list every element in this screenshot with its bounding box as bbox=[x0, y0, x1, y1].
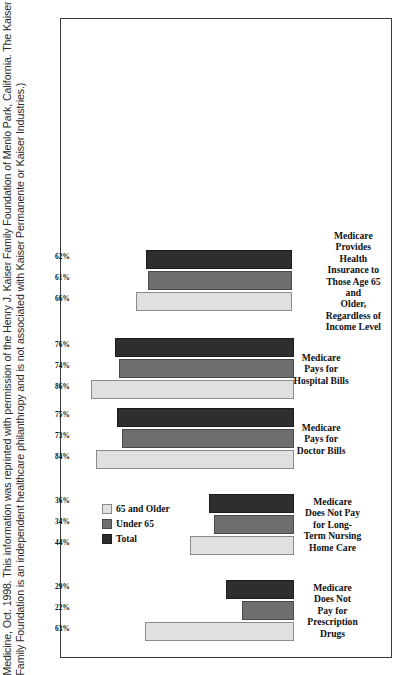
chart-category-label: Medicare Does Not Pay for Long-Term Nurs… bbox=[304, 496, 388, 554]
chart-bar-value-label: 75% bbox=[55, 411, 70, 418]
chart-bar-value-label: 34% bbox=[55, 518, 70, 525]
chart-bar-value-label: 29% bbox=[55, 583, 70, 590]
chart-bars-row: 63%22%29% bbox=[64, 582, 294, 640]
chart-bar-value-label: 73% bbox=[55, 432, 70, 439]
chart-bar[interactable]: 36% bbox=[209, 495, 294, 514]
chart-bar-slot: 73% bbox=[64, 430, 294, 449]
chart-bar-value-label: 76% bbox=[55, 341, 70, 348]
chart-category-label: Medicare Pays for Doctor Bills bbox=[304, 410, 388, 468]
source-caption-rotor: Medicine, Oct. 1998. This information wa… bbox=[0, 0, 56, 675]
chart-bar-slot: 76% bbox=[64, 339, 294, 358]
chart-bar-slot: 74% bbox=[64, 360, 294, 379]
chart-bar-slot: 34% bbox=[64, 516, 294, 535]
chart-bar-value-label: 22% bbox=[55, 604, 70, 611]
chart-bar-slot: 22% bbox=[64, 602, 294, 621]
chart-bar-slot: 75% bbox=[64, 409, 294, 428]
chart-bar[interactable]: 73% bbox=[122, 430, 294, 449]
chart-bars-row: 84%73%75% bbox=[64, 410, 294, 468]
chart-category-label-text: Medicare Provides Health Insurance to Th… bbox=[324, 230, 382, 333]
chart-bars-row: 66%61%62% bbox=[64, 252, 292, 310]
chart-bar-value-label: 62% bbox=[55, 253, 70, 260]
chart-bar-slot: 36% bbox=[64, 495, 294, 514]
chart-bar-slot: 44% bbox=[64, 537, 294, 556]
chart-bar-slot: 29% bbox=[64, 581, 294, 600]
chart-bar-slot: 86% bbox=[64, 381, 294, 400]
chart-bar[interactable]: 34% bbox=[214, 516, 294, 535]
chart-category-label-text: Medicare Does Not Pay for Prescription D… bbox=[304, 582, 362, 639]
chart-bar-value-label: 36% bbox=[55, 497, 70, 504]
chart-plot-area: 63%22%29%Medicare Does Not Pay for Presc… bbox=[64, 22, 388, 654]
source-caption-text: Medicine, Oct. 1998. This information wa… bbox=[0, 0, 27, 675]
chart-bar[interactable]: 44% bbox=[190, 537, 294, 556]
source-caption-block: Medicine, Oct. 1998. This information wa… bbox=[0, 0, 56, 675]
chart-bar[interactable]: 75% bbox=[117, 409, 294, 428]
chart-bar[interactable]: 84% bbox=[96, 451, 294, 470]
chart-category-label: Medicare Pays for Hospital Bills bbox=[304, 340, 388, 398]
chart-category-group: 84%73%75%Medicare Pays for Doctor Bills bbox=[64, 410, 388, 468]
chart-bar[interactable]: 74% bbox=[119, 360, 294, 379]
chart-bar-slot: 66% bbox=[64, 293, 292, 312]
chart-category-group: 44%34%36%Medicare Does Not Pay for Long-… bbox=[64, 496, 388, 554]
chart-category-group: 63%22%29%Medicare Does Not Pay for Presc… bbox=[64, 582, 388, 640]
chart-bar[interactable]: 22% bbox=[242, 602, 294, 621]
chart-frame: 65 and Older Under 65 Total 63%22%29%Med… bbox=[60, 18, 392, 658]
chart-category-label: Medicare Does Not Pay for Prescription D… bbox=[304, 582, 388, 640]
chart-plot-rotor: 65 and Older Under 65 Total 63%22%29%Med… bbox=[64, 22, 388, 654]
chart-bar[interactable]: 29% bbox=[226, 581, 294, 600]
chart-bar-value-label: 74% bbox=[55, 362, 70, 369]
chart-bar-value-label: 84% bbox=[55, 453, 70, 460]
chart-category-label-text: Medicare Pays for Doctor Bills bbox=[292, 422, 350, 456]
chart-category-label-text: Medicare Does Not Pay for Long-Term Nurs… bbox=[304, 496, 362, 553]
chart-bar[interactable]: 62% bbox=[146, 251, 292, 270]
chart-bar[interactable]: 63% bbox=[145, 623, 294, 642]
chart-bar[interactable]: 66% bbox=[136, 293, 292, 312]
chart-bars-row: 44%34%36% bbox=[64, 496, 294, 554]
chart-bar[interactable]: 76% bbox=[115, 339, 294, 358]
chart-bar[interactable]: 61% bbox=[148, 272, 292, 291]
chart-category-label-text: Medicare Pays for Hospital Bills bbox=[292, 352, 350, 386]
chart-bar-value-label: 44% bbox=[55, 539, 70, 546]
chart-bar-slot: 62% bbox=[64, 251, 292, 270]
chart-bar-value-label: 63% bbox=[55, 625, 70, 632]
chart-category-group: 66%61%62%Medicare Provides Health Insura… bbox=[64, 252, 388, 310]
chart-bars-row: 86%74%76% bbox=[64, 340, 294, 398]
chart-bar-value-label: 86% bbox=[55, 383, 70, 390]
chart-bar-value-label: 61% bbox=[55, 274, 70, 281]
chart-bar-value-label: 66% bbox=[55, 295, 70, 302]
chart-bar-slot: 61% bbox=[64, 272, 292, 291]
chart-bar[interactable]: 86% bbox=[91, 381, 294, 400]
chart-bar-slot: 63% bbox=[64, 623, 294, 642]
chart-category-group: 86%74%76%Medicare Pays for Hospital Bill… bbox=[64, 340, 388, 398]
chart-bar-slot: 84% bbox=[64, 451, 294, 470]
chart-category-label: Medicare Provides Health Insurance to Th… bbox=[302, 252, 388, 310]
